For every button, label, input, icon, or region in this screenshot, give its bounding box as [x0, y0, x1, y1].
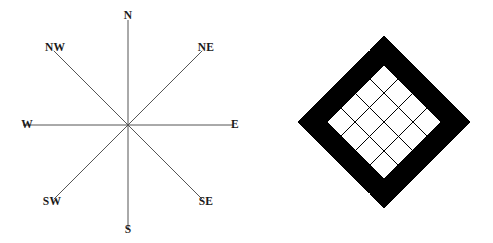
figure-canvas: NNEESESSWWNW [0, 0, 493, 243]
checkered-diamond-grid [260, 0, 493, 243]
compass-label-ne: NE [198, 42, 214, 54]
compass-label-e: E [231, 119, 239, 131]
compass-label-s: S [125, 224, 132, 236]
compass-label-nw: NW [45, 42, 65, 54]
compass-label-se: SE [199, 196, 213, 208]
checkered-diamond-panel [260, 0, 493, 243]
compass-label-n: N [124, 10, 133, 22]
compass-label-w: W [21, 119, 33, 131]
diamond-grid-group [298, 36, 469, 207]
compass-rays [0, 0, 260, 243]
compass-label-sw: SW [43, 196, 61, 208]
compass-rose-panel: NNEESESSWWNW [0, 0, 260, 243]
